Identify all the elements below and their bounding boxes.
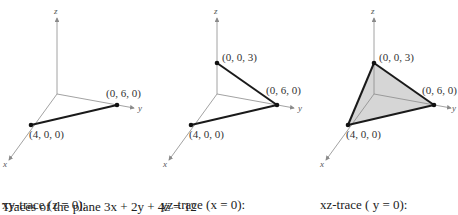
x-axis-label: x (2, 159, 7, 169)
x-axis (9, 94, 57, 160)
panel-xz-trace: z y x (0, 0, 3) (0, 6, 0) (4, 0, 0) (319, 6, 457, 169)
label-4-0-0: (4, 0, 0) (29, 128, 64, 141)
svg-text:x: x (162, 159, 167, 169)
svg-text:y: y (451, 103, 456, 113)
panel-yz-trace: z y x (0, 0, 3) (0, 6, 0) (4, 0, 0) (162, 6, 302, 169)
svg-text:(0, 0, 3): (0, 0, 3) (379, 51, 414, 64)
xy-trace-line (31, 105, 117, 125)
point-0-6-0 (115, 103, 120, 108)
caption-xz-trace: xz-trace ( y = 0): 3x + 4z = 12 (320, 170, 407, 215)
svg-text:z: z (213, 6, 218, 16)
svg-text:(4, 0, 0): (4, 0, 0) (346, 128, 381, 141)
point-4-0-0 (29, 123, 34, 128)
svg-text:x: x (319, 159, 324, 169)
svg-text:(0, 6, 0): (0, 6, 0) (422, 84, 457, 97)
z-axis-label: z (53, 6, 58, 16)
svg-text:(0, 6, 0): (0, 6, 0) (266, 84, 301, 97)
svg-text:(4, 0, 0): (4, 0, 0) (189, 128, 224, 141)
label-0-6-0: (0, 6, 0) (106, 87, 141, 100)
svg-text:y: y (297, 103, 302, 113)
figure-caption: Traces of the plane 3x + 2y + 4z = 12 (2, 199, 197, 215)
panel-xy-trace: z y x (0, 6, 0) (4, 0, 0) (2, 6, 142, 169)
svg-text:(0, 0, 3): (0, 0, 3) (222, 51, 257, 64)
svg-text:z: z (370, 6, 375, 16)
y-axis-label: y (137, 103, 142, 113)
